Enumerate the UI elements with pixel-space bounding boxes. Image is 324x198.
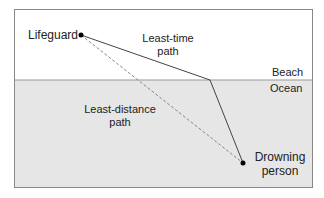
least-time-label-1: Least-time (138, 32, 198, 44)
least-distance-label-1: Least-distance (80, 103, 160, 115)
drowning-person-point (241, 161, 246, 166)
beach-label: Beach (272, 66, 303, 78)
ocean-label: Ocean (270, 82, 302, 94)
least-time-label-2: path (138, 45, 198, 57)
lifeguard-label: Lifeguard (28, 29, 78, 41)
least-distance-label-2: path (80, 116, 160, 128)
drowning-label-2: person (250, 165, 310, 177)
lifeguard-point (79, 33, 84, 38)
drowning-label-1: Drowning (250, 151, 310, 163)
